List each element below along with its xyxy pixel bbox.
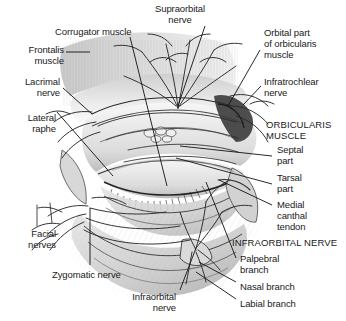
anatomy-figure: Supraorbital nerve Corrugator muscle Orb… [0,0,346,321]
label-orbital-part-of-orbicularis-muscle: Orbital part of orbicularis muscle [264,27,316,60]
label-lateral-raphe: Lateral raphe [0,112,56,134]
label-medial-canthal-tendon: Medial canthal tendon [277,199,307,232]
label-septal-part: Septal part [277,144,303,166]
label-nasal-branch: Nasal branch [240,281,295,292]
label-lacrimal-nerve: Lacrimal nerve [0,76,60,98]
label-orbicularis-muscle: ORBICULARIS MUSCLE [266,119,332,141]
label-frontalis-muscle: Frontalis muscle [0,44,64,66]
label-zygomatic-nerve: Zygomatic nerve [52,269,121,280]
label-supraorbital-nerve: Supraorbital nerve [140,3,220,25]
label-infraorbital-nerve-header: INFRAORBITAL NERVE [232,237,337,248]
label-palpebral-branch: Palpebral branch [240,253,279,275]
label-corrugator-muscle: Corrugator muscle [55,26,131,37]
label-infraorbital-nerve: Infraorbital nerve [108,291,176,313]
label-labial-branch: Labial branch [240,298,296,309]
label-tarsal-part: Tarsal part [277,172,302,194]
label-infratrochlear-nerve: Infratrochlear nerve [264,76,319,98]
label-facial-nerves: Facial nerves [0,228,56,250]
